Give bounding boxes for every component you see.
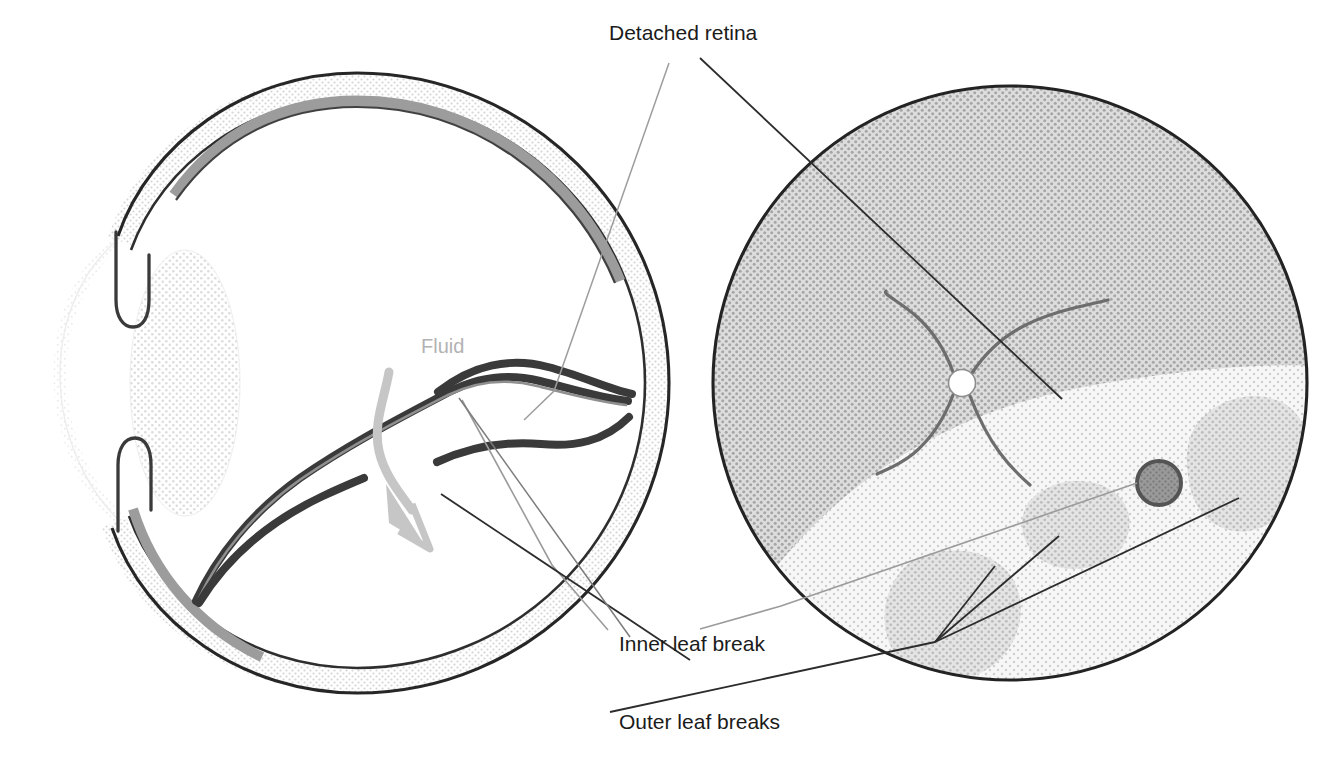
outer-leaf-break-patch-middle — [1022, 481, 1129, 569]
detached-retina-fold-highlight — [199, 382, 626, 598]
outer-leaf-break-patch-right — [1187, 396, 1308, 531]
optic-disc — [949, 370, 976, 397]
label-outer-leaf-breaks: Outer leaf breaks — [619, 710, 780, 733]
retinal-detachment-figure: Detached retina Fluid Inner leaf break O… — [0, 0, 1344, 767]
figure-canvas: Detached retina Fluid Inner leaf break O… — [0, 0, 1344, 767]
retinoschisis-inner-leaf-lower — [437, 417, 629, 462]
eye-cross-section-panel — [60, 73, 669, 693]
fluid-flow-arrow — [377, 372, 430, 549]
label-inner-leaf-break: Inner leaf break — [619, 632, 765, 655]
leader-inner-leaf-break-to-cross-section — [462, 400, 608, 630]
detached-retina-fold — [196, 377, 628, 601]
fundus-view-panel — [713, 86, 1330, 700]
label-detached-retina: Detached retina — [609, 21, 758, 44]
inner-leaf-break-hole — [1137, 461, 1181, 505]
label-fluid: Fluid — [421, 335, 464, 357]
lens — [130, 250, 240, 516]
